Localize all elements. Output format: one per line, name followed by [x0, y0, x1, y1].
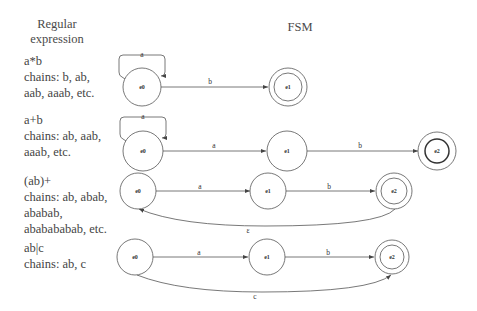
edge-label: a: [141, 112, 145, 121]
edge-label: a: [140, 50, 144, 59]
state-label: e0: [135, 188, 141, 194]
state-label: e2: [391, 188, 397, 194]
edge-label: a: [212, 141, 216, 150]
state-node: e0: [123, 68, 161, 106]
state-node: e1: [250, 173, 286, 209]
accepting-state-node: e1: [269, 68, 307, 106]
fsm-a-plus-b: a a b e0 e1 e2: [120, 112, 456, 171]
curved-transition-edge: [137, 275, 391, 292]
fsm-a-star-b: a b e0 e1: [119, 50, 307, 106]
fsm-ab-plus: a b ε e0 e1 e2: [120, 173, 412, 235]
fsm-ab-or-c: a b c e0 e1 e2: [117, 239, 409, 301]
state-label: e1: [284, 148, 290, 154]
state-label: e0: [132, 254, 138, 260]
state-label: e1: [264, 254, 270, 260]
accepting-state-node: e2: [376, 173, 412, 209]
edge-label: b: [326, 248, 330, 257]
accepting-state-node: e2: [418, 132, 456, 170]
edge-label: b: [358, 141, 362, 150]
state-node: e0: [120, 173, 156, 209]
state-label: e0: [140, 148, 146, 154]
state-label: e2: [389, 254, 395, 260]
state-label: e2: [434, 148, 440, 154]
state-label: e1: [265, 188, 271, 194]
edge-label: a: [197, 248, 201, 257]
state-node: e0: [123, 131, 163, 171]
fsm-diagrams: a b e0 e1 a a b e0 e1 e2: [0, 0, 477, 311]
accepting-state-node: e2: [375, 240, 409, 274]
edge-label: b: [327, 182, 331, 191]
state-node: e1: [267, 131, 307, 171]
edge-label: b: [208, 77, 212, 86]
edge-label: a: [198, 182, 202, 191]
edge-label: c: [253, 292, 257, 301]
state-label: e1: [285, 84, 291, 90]
state-node: e1: [249, 239, 285, 275]
state-label: e0: [139, 84, 145, 90]
edge-label: ε: [246, 226, 249, 235]
curved-transition-edge: [139, 209, 395, 226]
state-node: e0: [117, 239, 153, 275]
